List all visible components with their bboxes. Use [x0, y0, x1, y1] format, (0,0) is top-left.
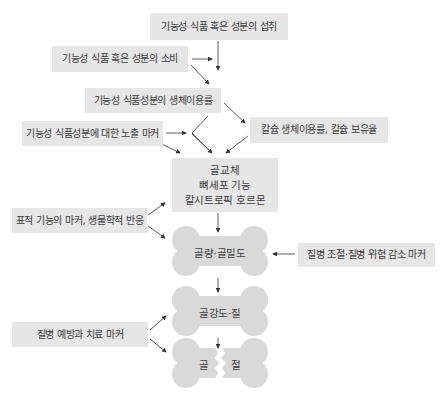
node-bioavailability: 기능성 식품성분의 생체이용률: [85, 88, 221, 113]
node-intake: 기능성 식품 혹은 성분의 섭취: [150, 13, 288, 40]
node-exposure-marker: 기능성 식품성분에 대한 노출 마커: [22, 121, 163, 146]
bone-label-fracture-left: 골: [196, 357, 212, 372]
center-line-calciotropic-hormone: 칼시트로픽 호르몬: [185, 193, 266, 208]
center-line-bone-turnover: 골교체: [210, 163, 239, 178]
join-lines: [192, 116, 212, 153]
node-target-marker: 표적 기능의 마커, 생물학적 반응: [12, 208, 147, 233]
bone-shape-fracture: [172, 338, 268, 388]
node-calcium: 칼슘 생체이용률, 칼슘 보유율: [250, 117, 388, 143]
node-consumption: 기능성 식품 혹은 성분의 소비: [52, 46, 188, 72]
bone-label-bone-strength: 골강도·질: [172, 305, 268, 320]
bone-label-fracture-right: 절: [228, 357, 244, 372]
node-center: 골교체 뼈세포 기능 칼시트로픽 호르몬: [172, 158, 278, 212]
node-prevention-marker: 질병 예방과 치료 마커: [12, 322, 148, 347]
node-disease-control-marker: 질병 조절·질병 위험 감소 마커: [298, 243, 435, 267]
bone-label-bone-mass: 골량·골밀도: [172, 245, 268, 260]
center-line-bone-cell-function: 뼈세포 기능: [199, 178, 251, 193]
